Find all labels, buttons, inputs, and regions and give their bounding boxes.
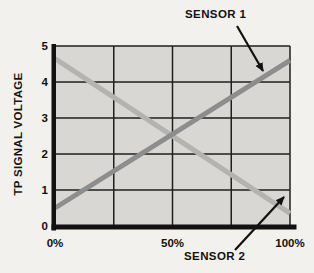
series-label-sensor-2: SENSOR 2 — [184, 250, 245, 262]
y-tick-label: 0 — [28, 219, 48, 233]
y-axis — [52, 44, 57, 231]
x-axis — [52, 225, 297, 230]
series-label-sensor-1: SENSOR 1 — [185, 8, 246, 20]
y-tick-label: 1 — [28, 183, 48, 197]
y-tick-label: 2 — [28, 147, 48, 161]
y-axis-title: TP SIGNAL VOLTAGE — [12, 72, 24, 195]
y-tick-label: 5 — [28, 39, 48, 53]
x-tick-label: 100% — [268, 236, 312, 250]
y-tick-label: 4 — [28, 75, 48, 89]
y-tick-label: 3 — [28, 111, 48, 125]
tp-signal-voltage-figure: TP SIGNAL VOLTAGE SENSOR 1 SENSOR 2 0123… — [0, 0, 314, 273]
x-tick-label: 50% — [151, 236, 195, 250]
x-tick-label: 0% — [33, 236, 77, 250]
